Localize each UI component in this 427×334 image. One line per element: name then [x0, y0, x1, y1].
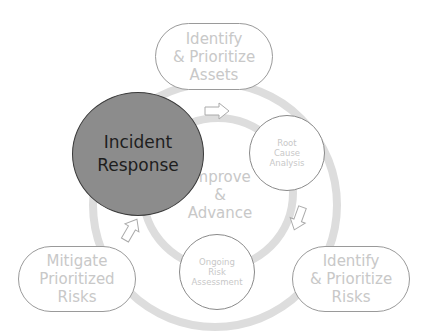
- node-label-line: Response: [97, 154, 179, 177]
- node-label-line: Analysis: [269, 158, 304, 168]
- node-mitigate-risks: Mitigate Prioritized Risks: [18, 246, 136, 312]
- node-identify-risks: Identify & Prioritize Risks: [292, 246, 410, 312]
- node-label-line: & Prioritize: [310, 270, 392, 288]
- node-root-cause: Root Cause Analysis: [249, 115, 325, 191]
- node-label-line: Root: [277, 138, 296, 148]
- node-label-line: Identify: [186, 30, 243, 48]
- node-label-line: Assessment: [192, 277, 243, 287]
- center-label-line: Advance: [188, 204, 253, 222]
- node-label-line: Assets: [190, 66, 239, 84]
- node-label-line: Risks: [58, 288, 97, 306]
- node-label-line: Mitigate: [47, 252, 108, 270]
- node-label-line: Risk: [208, 267, 226, 277]
- node-label-line: Cause: [274, 148, 300, 158]
- node-incident-response: Incident Response: [72, 92, 204, 216]
- node-label-line: Risks: [332, 288, 371, 306]
- node-label-line: Ongoing: [199, 257, 235, 267]
- node-label-line: Identify: [323, 252, 380, 270]
- node-label-line: & Prioritize: [173, 48, 255, 66]
- arrow-up-icon: [118, 215, 144, 244]
- node-ongoing-risk: Ongoing Risk Assessment: [179, 234, 255, 310]
- node-identify-assets: Identify & Prioritize Assets: [155, 23, 273, 90]
- center-label-line: &: [214, 186, 226, 204]
- node-label-line: Incident: [104, 131, 173, 154]
- node-label-line: Prioritized: [39, 270, 114, 288]
